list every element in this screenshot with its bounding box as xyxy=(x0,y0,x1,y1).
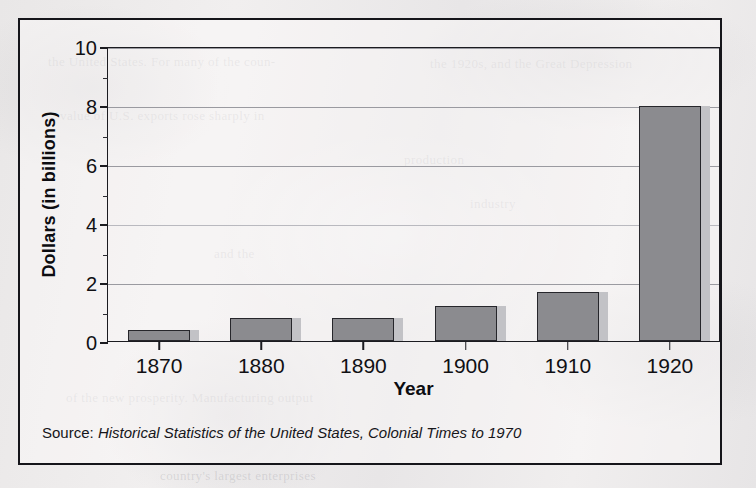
x-axis-tick xyxy=(567,341,569,350)
x-axis-tick-label: 1920 xyxy=(647,354,694,378)
y-axis-tick-label: 2 xyxy=(86,273,97,296)
x-axis-tick xyxy=(363,341,365,350)
x-axis-title: Year xyxy=(107,378,720,400)
y-axis-tick-label: 8 xyxy=(86,96,97,119)
y-axis-title: Dollars (in billions) xyxy=(36,47,62,342)
bar-chart: Dollars (in billions) 024681018701880189… xyxy=(20,20,724,390)
x-axis-tick-label: 1880 xyxy=(238,354,285,378)
x-axis-tick-label: 1870 xyxy=(136,354,183,378)
y-axis-title-label: Dollars (in billions) xyxy=(39,111,60,277)
bar-group[interactable]: 1870 xyxy=(108,48,210,341)
page-bleed-line: country's largest enterprises xyxy=(160,468,316,484)
x-axis-tick-label: 1890 xyxy=(340,354,387,378)
bar-group[interactable]: 1900 xyxy=(415,48,517,341)
x-axis-tick xyxy=(669,341,671,350)
x-axis-tick-label: 1910 xyxy=(544,354,591,378)
y-axis-tick-label: 10 xyxy=(75,37,97,60)
plot-area: 0246810187018801890190019101920 xyxy=(107,47,720,342)
source-note: Source: Historical Statistics of the Uni… xyxy=(42,424,521,441)
bar[interactable] xyxy=(230,318,292,341)
y-axis-tick xyxy=(100,342,108,344)
bar-group[interactable]: 1910 xyxy=(517,48,619,341)
bar[interactable] xyxy=(128,330,190,341)
x-axis-tick-label: 1900 xyxy=(442,354,489,378)
bar[interactable] xyxy=(639,106,701,341)
bar-group[interactable]: 1880 xyxy=(210,48,312,341)
figure-frame: Dollars (in billions) 024681018701880189… xyxy=(18,18,722,465)
x-axis-tick xyxy=(260,341,262,350)
y-axis-tick-label: 0 xyxy=(86,332,97,355)
y-axis-tick-label: 4 xyxy=(86,214,97,237)
y-axis-tick xyxy=(100,47,108,49)
bar-group[interactable]: 1920 xyxy=(619,48,721,341)
source-prefix: Source: xyxy=(42,424,98,441)
y-axis-tick xyxy=(100,165,108,167)
y-axis-tick xyxy=(100,106,108,108)
x-axis-tick xyxy=(465,341,467,350)
bar[interactable] xyxy=(435,306,497,341)
bar-group[interactable]: 1890 xyxy=(312,48,414,341)
y-axis-tick xyxy=(100,283,108,285)
bar[interactable] xyxy=(537,292,599,341)
bar[interactable] xyxy=(332,318,394,341)
source-title: Historical Statistics of the United Stat… xyxy=(98,424,521,441)
y-axis-tick-label: 6 xyxy=(86,155,97,178)
y-axis-tick xyxy=(100,224,108,226)
x-axis-tick xyxy=(158,341,160,350)
